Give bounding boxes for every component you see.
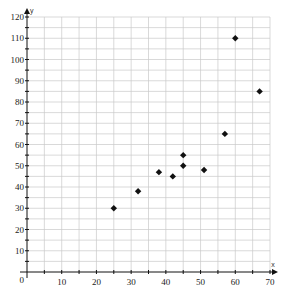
x-tick-label: 70 — [266, 277, 276, 287]
y-tick-label: 110 — [11, 33, 25, 43]
x-axis-arrow-icon — [272, 269, 278, 275]
x-tick-label: 50 — [196, 277, 206, 287]
x-tick-label: 10 — [57, 277, 67, 287]
y-tick-label: 20 — [15, 225, 25, 235]
y-tick-label: 60 — [15, 140, 25, 150]
x-axis-label: x — [271, 261, 275, 268]
data-point-diamond — [232, 35, 238, 41]
x-tick-label: 60 — [231, 277, 241, 287]
data-point-diamond — [256, 88, 262, 94]
data-point-diamond — [222, 131, 228, 137]
grid-lines — [27, 17, 270, 272]
data-point-diamond — [180, 152, 186, 158]
y-tick-label: 70 — [15, 118, 25, 128]
y-tick-label: 80 — [15, 97, 25, 107]
x-tick-label: 30 — [127, 277, 137, 287]
data-point-diamond — [111, 205, 117, 211]
data-point-diamond — [170, 173, 176, 179]
y-axis-label: y — [30, 7, 34, 15]
data-point-diamond — [135, 188, 141, 194]
x-tick-label: 20 — [92, 277, 102, 287]
y-tick-label: 40 — [15, 182, 25, 192]
data-point-diamond — [156, 169, 162, 175]
data-point-diamond — [201, 167, 207, 173]
y-tick-label: 50 — [15, 161, 25, 171]
scatter-chart: 1020304050607010203040506070809010011012… — [0, 0, 285, 294]
data-point-diamond — [180, 163, 186, 169]
origin-label: 0 — [20, 275, 25, 285]
y-tick-label: 10 — [15, 246, 25, 256]
y-tick-label: 120 — [11, 12, 25, 22]
y-tick-label: 90 — [15, 76, 25, 86]
x-tick-label: 40 — [161, 277, 171, 287]
y-tick-label: 30 — [15, 203, 25, 213]
axes — [20, 8, 278, 278]
y-tick-label: 100 — [11, 55, 25, 65]
